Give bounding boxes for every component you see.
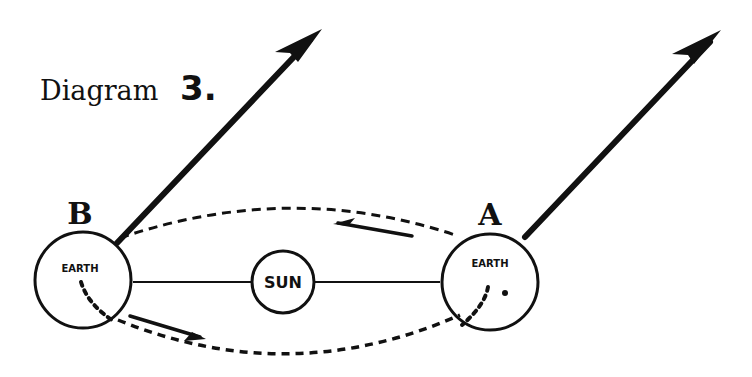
earth-a-circle <box>442 234 538 330</box>
diagram-title: Diagram 3. <box>40 68 217 108</box>
earth-a-label: EARTH <box>471 258 508 269</box>
earth-a-dot <box>502 290 508 296</box>
orbit-diagram: Diagram 3. EARTH B SUN <box>0 0 752 377</box>
diagram-number: 3. <box>180 68 217 108</box>
sun-label: SUN <box>264 273 302 292</box>
title-word: Diagram <box>40 75 158 106</box>
position-a-label: A <box>477 197 502 232</box>
earth-b-label: EARTH <box>61 263 98 274</box>
earth-a: EARTH A <box>442 197 538 330</box>
earth-b-circle <box>35 232 131 328</box>
orbit-direction-arrow-lower <box>130 316 206 341</box>
earth-a-dotted-path <box>462 287 488 325</box>
orbit-lower-arc <box>118 315 460 354</box>
earth-b: EARTH B <box>35 196 131 328</box>
orbit-direction-arrow-upper <box>333 218 412 236</box>
sun: SUN <box>252 251 314 313</box>
earth-b-axis-arrow <box>117 29 322 243</box>
earth-a-axis-arrow <box>525 30 721 237</box>
position-b-label: B <box>67 196 92 231</box>
earth-b-dotted-path <box>81 282 115 322</box>
